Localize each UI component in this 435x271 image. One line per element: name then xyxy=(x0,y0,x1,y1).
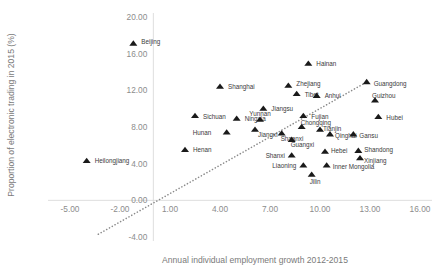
data-point: Sichuan xyxy=(191,113,226,120)
point-marker-triangle xyxy=(181,147,189,152)
data-point: Guizhou xyxy=(371,92,396,103)
point-label: Guizhou xyxy=(372,92,396,99)
point-label: Guangdong xyxy=(374,80,407,88)
point-label: Anhui xyxy=(325,92,341,99)
point-marker-triangle xyxy=(233,116,241,121)
y-tick-label: 0.00 xyxy=(131,195,148,205)
data-point: Henan xyxy=(181,146,212,153)
point-marker-triangle xyxy=(321,149,329,154)
data-point: Anhui xyxy=(313,92,341,99)
x-tick-label: -5.00 xyxy=(61,204,80,214)
data-point: Shanghai xyxy=(216,83,255,91)
point-label: Hunan xyxy=(193,129,212,136)
axis-titles-group: Annual individual employment growth 2012… xyxy=(6,33,348,265)
point-marker-triangle xyxy=(363,79,371,84)
point-marker-triangle xyxy=(191,113,199,118)
x-tick-label: 7.00 xyxy=(262,204,279,214)
data-point: Jilin xyxy=(308,171,321,185)
point-marker-triangle xyxy=(293,91,301,96)
data-point: Hainan xyxy=(304,60,336,67)
point-marker-triangle xyxy=(356,155,364,160)
point-label: Guangxi xyxy=(291,141,314,149)
x-tick-label: 1.00 xyxy=(162,204,179,214)
point-label: Henan xyxy=(193,146,212,153)
data-point: Shandong xyxy=(354,146,393,154)
data-point: Shanxi xyxy=(266,152,296,159)
point-label: Shanghai xyxy=(228,83,255,91)
point-label: Shanxi xyxy=(266,152,285,159)
point-label: Liaoning xyxy=(272,162,296,170)
point-marker-triangle xyxy=(83,158,91,163)
x-axis-title: Annual individual employment growth 2012… xyxy=(162,255,348,265)
tick-labels-group: -5.00-2.001.004.007.0010.0013.0016.00-4.… xyxy=(61,12,431,242)
point-label: Beijing xyxy=(141,38,160,46)
x-tick-label: -2.00 xyxy=(111,204,130,214)
y-axis-title: Proportion of electronic trading in 2015… xyxy=(6,33,16,197)
data-point: Guangdong xyxy=(363,79,407,88)
point-marker-triangle xyxy=(354,148,362,153)
data-point: Zhejiang xyxy=(284,80,321,88)
point-marker-triangle xyxy=(308,171,316,176)
point-label: Zhejiang xyxy=(296,80,321,88)
point-label: Jiangxi xyxy=(258,131,278,139)
point-label: Heilongjiang xyxy=(95,157,130,165)
point-label: Yunnan xyxy=(249,110,271,117)
point-label: Jiangsu xyxy=(271,105,293,113)
point-label: Inner Mongolia xyxy=(333,163,375,171)
point-marker-triangle xyxy=(323,162,331,167)
data-point: Heilongjiang xyxy=(83,157,130,165)
point-label: Gansu xyxy=(359,132,378,139)
y-tick-label: 8.00 xyxy=(131,122,148,132)
y-tick-label: 20.00 xyxy=(127,12,148,22)
point-label: Hainan xyxy=(316,60,336,67)
y-tick-label: 12.00 xyxy=(127,85,148,95)
y-tick-label: 4.00 xyxy=(131,159,148,169)
y-tick-label: -4.00 xyxy=(128,232,147,242)
point-label: Shandong xyxy=(364,146,393,154)
data-point: Hebei xyxy=(321,147,347,154)
point-marker-triangle xyxy=(223,129,231,134)
x-tick-label: 16.00 xyxy=(410,204,431,214)
point-marker-triangle xyxy=(304,61,312,66)
x-tick-label: 4.00 xyxy=(212,204,229,214)
point-label: Sichuan xyxy=(203,113,226,120)
point-marker-triangle xyxy=(284,83,292,88)
point-marker-triangle xyxy=(299,113,307,118)
x-tick-label: 13.00 xyxy=(360,204,381,214)
data-point: Hubei xyxy=(374,114,402,122)
data-point: Jiangxi xyxy=(251,127,278,140)
y-tick-label: 16.00 xyxy=(127,49,148,59)
chart-canvas: BeijingHeilongjiangShanghaiHainanZhejian… xyxy=(0,0,435,271)
x-tick-label: 10.00 xyxy=(310,204,331,214)
point-marker-triangle xyxy=(216,83,224,88)
point-marker-triangle xyxy=(129,40,137,45)
data-point: Hunan xyxy=(193,129,231,136)
scatter-chart: BeijingHeilongjiangShanghaiHainanZhejian… xyxy=(0,0,435,271)
point-label: Jilin xyxy=(310,178,321,185)
point-label: Hebei xyxy=(331,147,347,154)
data-point: Liaoning xyxy=(272,162,307,170)
point-label: Hubei xyxy=(386,114,402,121)
point-marker-triangle xyxy=(288,152,296,157)
point-marker-triangle xyxy=(299,162,307,167)
data-point: Beijing xyxy=(129,38,160,46)
data-point: Inner Mongolia xyxy=(323,162,375,171)
point-marker-triangle xyxy=(374,114,382,119)
